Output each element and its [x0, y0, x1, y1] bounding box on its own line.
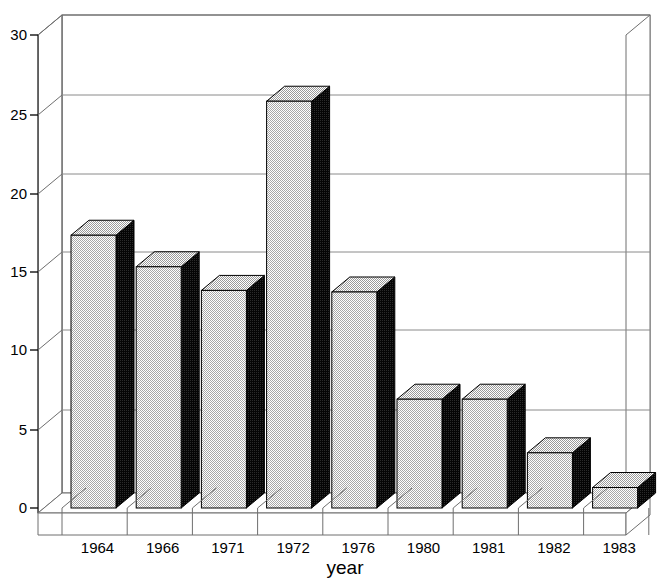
- bar-1981: [462, 384, 525, 508]
- y-tick-label-20: 20: [10, 185, 27, 202]
- bar-side-face: [116, 220, 134, 508]
- bar-front-face: [462, 399, 507, 508]
- bar-side-face: [377, 277, 395, 508]
- bar-front-face: [593, 488, 638, 508]
- bar-1966: [136, 252, 199, 508]
- x-tick-label-1976: 1976: [342, 539, 375, 556]
- x-tick-label-1964: 1964: [81, 539, 114, 556]
- bar-front-face: [332, 292, 377, 508]
- floor-front: [38, 513, 626, 535]
- bar-side-face: [442, 384, 460, 508]
- bar-1976: [332, 277, 395, 508]
- y-tick-label-30: 30: [10, 26, 27, 43]
- bar-1972: [267, 86, 330, 508]
- x-tick-label-1982: 1982: [537, 539, 570, 556]
- x-tick-label-1980: 1980: [407, 539, 440, 556]
- bar-side-face: [181, 252, 199, 508]
- y-tick-label-25: 25: [10, 106, 27, 123]
- x-tick-label-1972: 1972: [276, 539, 309, 556]
- bar-1971: [201, 275, 264, 508]
- bar-side-face: [507, 384, 525, 508]
- x-tick-label-1971: 1971: [211, 539, 244, 556]
- x-tick-label-1981: 1981: [472, 539, 505, 556]
- y-axis-wall-top: [38, 15, 62, 513]
- bar-side-face: [312, 86, 330, 508]
- y-tick-label-15: 15: [10, 263, 27, 280]
- x-axis-title: year: [327, 557, 365, 578]
- bar-front-face: [201, 290, 246, 508]
- x-tick-label-1966: 1966: [146, 539, 179, 556]
- bar-front-face: [71, 235, 116, 508]
- bar-front-face: [136, 267, 181, 508]
- x-tick-label-1983: 1983: [602, 539, 635, 556]
- chart-canvas: 30 25 20 15 10 5 0 196419661971197219761…: [0, 0, 662, 587]
- bar-front-face: [527, 453, 572, 508]
- y-tick-labels: 30 25 20 15 10 5 0: [10, 26, 27, 516]
- y-tick-label-5: 5: [19, 421, 27, 438]
- bar-1982: [527, 438, 590, 508]
- bar-chart-3d: 30 25 20 15 10 5 0 196419661971197219761…: [0, 0, 662, 587]
- y-tick-label-0: 0: [19, 499, 27, 516]
- right-wall: [626, 15, 650, 513]
- bar-front-face: [267, 101, 312, 508]
- bar-1980: [397, 384, 460, 508]
- bar-side-face: [246, 275, 264, 508]
- y-tick-label-10: 10: [10, 341, 27, 358]
- bar-1964: [71, 220, 134, 508]
- bar-front-face: [397, 399, 442, 508]
